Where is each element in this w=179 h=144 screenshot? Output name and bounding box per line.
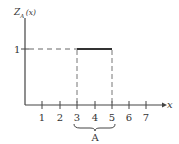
characteristic-function-diagram: ZA(x) 1 x 1 2 3 4 5 6 7 A [0, 0, 179, 144]
set-brace [74, 124, 115, 131]
x-axis-label: x [167, 99, 173, 110]
y-axis-label: ZA(x) [13, 7, 36, 19]
svg-text:6: 6 [126, 112, 132, 123]
svg-text:5: 5 [109, 112, 115, 123]
x-tick-labels: 1 2 3 4 5 6 7 [39, 112, 149, 123]
svg-text:3: 3 [74, 112, 80, 123]
svg-text:4: 4 [92, 112, 98, 123]
svg-text:2: 2 [57, 112, 63, 123]
y-tick-label: 1 [14, 44, 20, 55]
svg-text:7: 7 [143, 112, 149, 123]
svg-text:1: 1 [39, 112, 45, 123]
brace-label: A [90, 132, 99, 143]
